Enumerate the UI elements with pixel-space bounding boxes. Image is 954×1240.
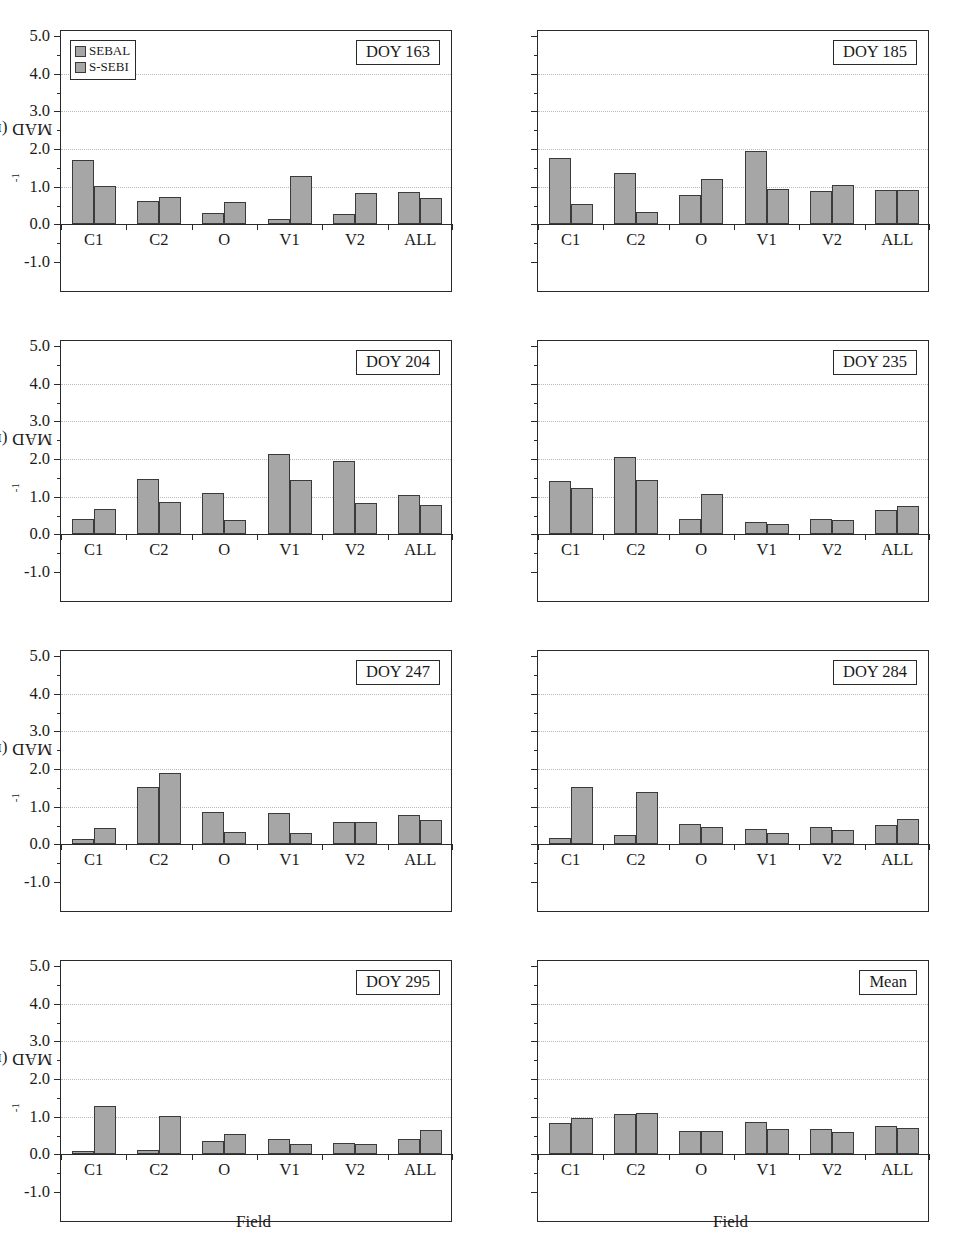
- y-axis-minor-tick: [57, 478, 61, 479]
- x-axis-tick-label: ALL: [404, 540, 436, 560]
- y-axis-tick: [54, 262, 61, 263]
- y-axis-label-exponent: -1: [9, 793, 21, 803]
- y-axis-label-exponent: -1: [9, 173, 21, 183]
- bar-s-sebi-c1: [571, 787, 593, 845]
- bar-s-sebi-o: [701, 1131, 723, 1154]
- y-axis-minor-tick: [57, 826, 61, 827]
- y-axis-minor-tick: [57, 788, 61, 789]
- x-axis-tick-label: C2: [149, 1160, 168, 1180]
- bar-s-sebi-o: [224, 832, 246, 844]
- x-axis-tick-label: O: [218, 1160, 230, 1180]
- y-axis-minor-tick: [57, 93, 61, 94]
- x-axis-tick-label: V2: [822, 850, 842, 870]
- x-axis-tick-label: O: [695, 1160, 707, 1180]
- y-axis-tick: [531, 421, 538, 422]
- bar-sebal-c2: [614, 457, 636, 534]
- y-axis-minor-tick: [534, 168, 538, 169]
- panel-title-box: DOY 284: [833, 660, 917, 685]
- bar-sebal-v2: [810, 519, 832, 534]
- bar-s-sebi-o: [224, 202, 246, 224]
- y-axis-tick: [54, 1192, 61, 1193]
- y-axis-tick-label: 0.0: [29, 834, 50, 854]
- chart-panel-doy-235: C1C2OV1V2ALLDOY 235: [477, 310, 954, 620]
- y-axis-tick: [531, 807, 538, 808]
- x-axis-tick: [669, 1154, 670, 1160]
- bar-sebal-v1: [268, 454, 290, 534]
- plot-frame: C1C2OV1V2ALLMean: [537, 960, 929, 1222]
- y-axis-minor-tick: [57, 206, 61, 207]
- y-axis-minor-tick: [534, 863, 538, 864]
- bar-s-sebi-c1: [571, 488, 593, 534]
- gridline: [61, 769, 451, 770]
- x-axis-tick: [865, 1154, 866, 1160]
- y-axis-minor-tick: [57, 1136, 61, 1137]
- bar-sebal-c2: [137, 201, 159, 224]
- gridline: [61, 421, 451, 422]
- x-axis-tick: [734, 1154, 735, 1160]
- y-axis-minor-tick: [57, 243, 61, 244]
- bar-sebal-c1: [549, 838, 571, 845]
- plot-frame: -1.00.01.02.03.04.05.0C1C2OV1V2ALLSEBALS…: [60, 30, 452, 292]
- bar-sebal-o: [679, 1131, 701, 1154]
- y-axis-tick: [531, 656, 538, 657]
- bar-sebal-all: [875, 1126, 897, 1154]
- y-axis-tick-label: 3.0: [29, 411, 50, 431]
- x-axis-tick: [61, 224, 62, 230]
- legend-swatch-icon: [75, 46, 86, 57]
- y-axis-tick: [54, 882, 61, 883]
- x-axis-tick: [452, 844, 453, 850]
- bar-s-sebi-c1: [571, 204, 593, 225]
- y-axis-minor-tick: [57, 675, 61, 676]
- x-axis-tick: [192, 844, 193, 850]
- gridline: [538, 769, 928, 770]
- zero-axis-line: [61, 224, 451, 225]
- y-axis-tick: [54, 187, 61, 188]
- x-axis-tick-label: C2: [149, 230, 168, 250]
- bar-s-sebi-v1: [767, 1129, 789, 1154]
- x-axis-tick-label: V1: [280, 850, 300, 870]
- y-axis-tick-label: 3.0: [29, 101, 50, 121]
- y-axis-minor-tick: [57, 168, 61, 169]
- x-axis-tick: [61, 534, 62, 540]
- y-axis-tick: [54, 224, 61, 225]
- x-axis-tick-label: ALL: [404, 850, 436, 870]
- y-axis-tick: [531, 187, 538, 188]
- x-axis-tick-label: C1: [561, 850, 580, 870]
- y-axis-minor-tick: [534, 1098, 538, 1099]
- bar-s-sebi-v2: [832, 520, 854, 535]
- y-axis-tick-label: 5.0: [29, 336, 50, 356]
- bar-s-sebi-o: [701, 827, 723, 844]
- x-axis-tick: [865, 224, 866, 230]
- bar-sebal-v1: [268, 813, 290, 845]
- gridline: [538, 111, 928, 112]
- x-axis-tick-label: V2: [345, 1160, 365, 1180]
- x-axis-label: Field: [0, 1212, 477, 1232]
- x-axis-tick: [929, 224, 930, 230]
- y-axis-tick-label: 2.0: [29, 1069, 50, 1089]
- y-axis-tick-label: 5.0: [29, 956, 50, 976]
- y-axis-tick: [54, 497, 61, 498]
- x-axis-tick: [538, 534, 539, 540]
- bar-s-sebi-all: [897, 819, 919, 845]
- legend-item-ssebi: S-SEBI: [75, 59, 130, 75]
- x-axis-tick: [322, 1154, 323, 1160]
- y-axis-minor-tick: [534, 788, 538, 789]
- y-axis-label-exponent: -1: [9, 1103, 21, 1113]
- x-axis-tick-label: V1: [757, 850, 777, 870]
- gridline: [61, 1041, 451, 1042]
- y-axis-tick-label: -1.0: [24, 562, 50, 582]
- y-axis-tick-label: 4.0: [29, 994, 50, 1014]
- bar-sebal-c1: [549, 481, 571, 534]
- x-axis-tick-label: O: [218, 850, 230, 870]
- y-axis-tick-label: 5.0: [29, 646, 50, 666]
- bar-sebal-all: [875, 510, 897, 534]
- y-axis-tick: [54, 1154, 61, 1155]
- plot-area: C1C2OV1V2ALL: [538, 31, 928, 291]
- x-axis-tick: [61, 1154, 62, 1160]
- gridline: [538, 149, 928, 150]
- gridline: [538, 731, 928, 732]
- chart-legend: SEBALS-SEBI: [70, 40, 136, 80]
- bar-s-sebi-v2: [355, 1144, 377, 1154]
- y-axis-minor-tick: [534, 403, 538, 404]
- gridline: [61, 1004, 451, 1005]
